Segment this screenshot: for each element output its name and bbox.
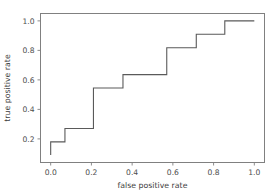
x-axis-title: false positive rate [118, 181, 188, 190]
y-tick-label: 0.6 [22, 76, 34, 85]
y-axis-title: true positive rate [3, 54, 12, 122]
x-tick-label: 1.0 [248, 168, 260, 177]
x-tick-label: 0.0 [45, 168, 57, 177]
y-tick-label: 0.4 [22, 105, 34, 114]
x-tick-label: 0.6 [167, 168, 179, 177]
roc-chart-figure: 0.00.20.40.60.81.0 0.20.40.60.81.0 false… [0, 0, 279, 194]
x-tick-label: 0.8 [208, 168, 220, 177]
x-tick-label: 0.4 [126, 168, 138, 177]
y-tick-label: 1.0 [22, 17, 34, 26]
y-tick-label: 0.8 [22, 46, 34, 55]
x-tick-label: 0.2 [85, 168, 97, 177]
y-tick-label: 0.2 [22, 135, 34, 144]
roc-plot-canvas: 0.00.20.40.60.81.0 0.20.40.60.81.0 false… [0, 0, 279, 194]
axes-background [41, 14, 265, 163]
